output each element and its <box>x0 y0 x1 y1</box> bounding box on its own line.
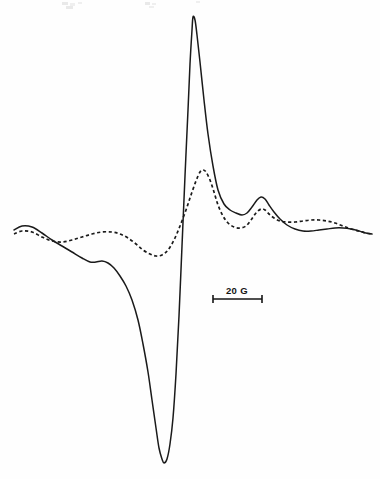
esr-spectrum-figure: 20 G <box>0 0 380 479</box>
scale-bar: 20 G <box>213 285 262 303</box>
spectrum-trace-solid <box>14 16 372 463</box>
spectrum-trace-dashed <box>14 170 372 256</box>
spectrum-plot-area: 20 G <box>0 0 380 479</box>
scale-bar-label: 20 G <box>226 285 248 296</box>
scan-artifacts <box>62 1 200 9</box>
